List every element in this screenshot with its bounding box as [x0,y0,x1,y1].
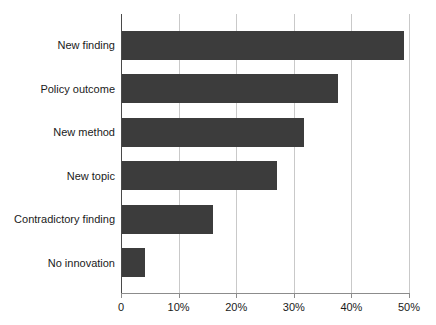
x-tick-10 [179,293,180,298]
x-axis-line [121,293,410,294]
x-tick-50 [409,293,410,298]
gridline-50 [409,14,410,293]
x-tick-label-50: 50% [398,300,420,314]
x-tick-label-40: 40% [340,300,362,314]
x-tick-40 [351,293,352,298]
x-tick-label-0: 0 [118,300,124,314]
bar-no-innovation [122,248,145,277]
bar-contradictory-finding [122,205,213,234]
x-tick-label-30: 30% [283,300,305,314]
bar-new-topic [122,161,277,190]
x-tick-30 [294,293,295,298]
category-label: New finding [3,38,115,52]
x-tick-label-10: 10% [168,300,190,314]
x-tick-0 [121,293,122,298]
category-label: No innovation [3,256,115,270]
bar-new-method [122,118,304,147]
category-label: New topic [3,169,115,183]
bar-new-finding [122,31,404,60]
category-label: New method [3,125,115,139]
bar-chart: New finding Policy outcome New method Ne… [0,0,436,325]
category-axis-labels: New finding Policy outcome New method Ne… [0,0,115,325]
category-label: Contradictory finding [3,212,115,226]
x-tick-label-20: 20% [225,300,247,314]
x-tick-20 [236,293,237,298]
plot-area [121,14,409,293]
category-label: Policy outcome [3,82,115,96]
bar-policy-outcome [122,74,338,103]
